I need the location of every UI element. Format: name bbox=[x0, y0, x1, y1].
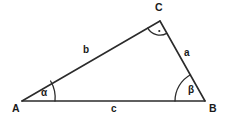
side-label-b: b bbox=[83, 45, 89, 55]
vertex-label-a: A bbox=[12, 103, 20, 113]
vertex-label-b: B bbox=[209, 103, 217, 113]
triangle-diagram: A B C a b c α β bbox=[0, 0, 229, 118]
angle-gamma-dot-icon bbox=[158, 30, 160, 32]
side-label-c: c bbox=[111, 104, 117, 114]
vertex-label-c: C bbox=[155, 2, 163, 12]
angle-label-alpha: α bbox=[41, 88, 47, 98]
triangle-drawing-canvas bbox=[0, 0, 229, 118]
side-label-a: a bbox=[184, 48, 190, 58]
angle-label-beta: β bbox=[188, 85, 194, 95]
